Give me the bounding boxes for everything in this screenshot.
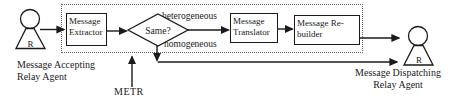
message-rebuilder-box: Message Re- builder [294,15,360,45]
accepting-agent-body [16,29,45,49]
message-accepting-agent-figure: R [16,10,45,49]
accepting-agent-caption-line1: Message Accepting [17,59,95,71]
dispatching-agent-head [409,27,428,46]
accepting-agent-caption-line2: Relay Agent [17,71,95,83]
dispatching-agent-caption-line1: Message Dispatching [345,67,451,79]
heterogeneous-branch-label: heterogeneous [162,11,217,21]
dispatching-agent-symbol: R [416,55,422,65]
dispatching-agent-caption: Message Dispatching Relay Agent [345,67,451,90]
accepting-agent-head [21,10,40,29]
message-translator-label-line2: Translator [233,27,277,38]
accepting-agent-caption: Message Accepting Relay Agent [17,59,95,82]
diagram-canvas: Message Extractor Message Translator Mes… [0,0,453,102]
message-extractor-label-line2: Extractor [69,27,106,38]
accepting-agent-symbol: R [27,39,33,49]
homogeneous-branch-label: homogeneous [164,39,217,49]
message-rebuilder-label-line2: builder [297,29,359,40]
message-translator-box: Message Translator [230,13,278,43]
message-extractor-box: Message Extractor [66,13,107,46]
message-translator-label-line1: Message [233,16,277,27]
message-rebuilder-label-line1: Message Re- [297,18,359,29]
dispatching-agent-caption-line2: Relay Agent [345,79,451,91]
metr-label: METR [114,86,144,97]
message-dispatching-agent-figure: R [404,27,433,66]
message-extractor-label-line1: Message [69,16,106,27]
dispatching-agent-body [404,46,433,66]
